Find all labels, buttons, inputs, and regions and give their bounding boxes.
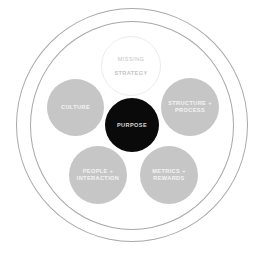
node-structure-process: STRUCTURE + PROCESS — [161, 78, 219, 136]
metrics-rewards-label: METRICS + REWARDS — [152, 168, 186, 182]
node-missing-strategy: MISSING STRATEGY — [101, 36, 161, 96]
node-culture: CULTURE — [47, 79, 104, 136]
missing-strategy-line1: MISSING — [114, 56, 147, 63]
node-purpose: PURPOSE — [105, 98, 159, 152]
organizational-model-diagram: MISSING STRATEGY CULTURE STRUCTURE + PRO… — [0, 0, 258, 256]
structure-process-label: STRUCTURE + PROCESS — [168, 100, 212, 114]
people-interaction-label: PEOPLE + INTERACTION — [77, 168, 120, 182]
node-people-interaction: PEOPLE + INTERACTION — [69, 146, 127, 204]
purpose-label: PURPOSE — [117, 122, 147, 129]
missing-strategy-line2: STRATEGY — [114, 70, 147, 77]
culture-label: CULTURE — [61, 104, 90, 111]
node-metrics-rewards: METRICS + REWARDS — [140, 146, 198, 204]
